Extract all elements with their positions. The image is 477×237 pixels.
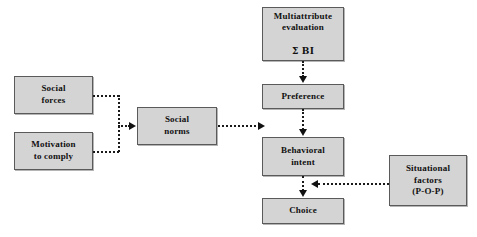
arrow-social-norms-to-behavioral-intent	[258, 122, 265, 130]
node-preference[interactable]: Preference	[262, 84, 344, 109]
arrow-preference-to-behavioral-intent	[299, 129, 307, 136]
arrow-behavioral-intent-to-choice	[299, 190, 307, 197]
arrow-bracket-to-social-norms	[129, 122, 136, 130]
connector-motivation-to-bracket	[93, 151, 119, 153]
connector-preference-to-behavioral-intent	[302, 109, 304, 130]
node-situational-factors-label: Situational factors (P-O-P)	[406, 163, 450, 198]
node-behavioral-intent-label: Behavioral intent	[281, 145, 325, 168]
node-multiattribute-evaluation-sublabel: Σ BI	[274, 46, 332, 58]
arrow-multiattribute-to-preference	[299, 76, 307, 83]
node-situational-factors[interactable]: Situational factors (P-O-P)	[389, 155, 467, 206]
node-choice-label: Choice	[289, 205, 317, 217]
node-preference-label: Preference	[281, 91, 324, 103]
connector-social-forces-to-bracket	[93, 95, 119, 97]
node-social-forces-label: Social forces	[41, 83, 65, 106]
node-choice[interactable]: Choice	[262, 198, 344, 224]
connector-behavioral-intent-to-choice	[302, 176, 304, 191]
node-multiattribute-evaluation-label: Multiattribute evaluation	[274, 11, 332, 34]
connector-situational-factors-to-behavioral-intent	[318, 183, 389, 185]
connector-multiattribute-to-preference	[302, 61, 304, 77]
connector-bracket-spine	[118, 95, 120, 152]
node-social-norms[interactable]: Social norms	[137, 107, 217, 145]
arrow-situational-factors-to-behavioral-intent	[311, 180, 318, 188]
diagram-canvas: Multiattribute evaluation Σ BI Social fo…	[0, 0, 477, 237]
node-social-norms-label: Social norms	[164, 114, 190, 137]
node-multiattribute-evaluation[interactable]: Multiattribute evaluation Σ BI	[262, 7, 344, 61]
node-motivation-to-comply[interactable]: Motivation to comply	[14, 132, 93, 170]
connector-social-norms-to-behavioral-intent	[218, 125, 260, 127]
node-behavioral-intent[interactable]: Behavioral intent	[262, 137, 344, 176]
node-social-forces[interactable]: Social forces	[14, 76, 93, 114]
node-motivation-to-comply-label: Motivation to comply	[31, 139, 76, 162]
